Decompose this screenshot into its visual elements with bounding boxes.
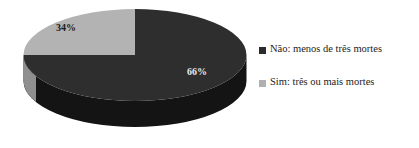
slice-label-nao: 66% bbox=[187, 66, 207, 77]
legend-item-sim[interactable]: Sim: três ou mais mortes bbox=[259, 77, 419, 88]
legend-square-marker-light-icon bbox=[259, 80, 266, 87]
legend-label-nao: Não: menos de três mortes bbox=[270, 44, 382, 55]
pie-chart: 34% 66% Não: menos de três mortes Sim: t… bbox=[0, 0, 419, 148]
pie-plot-area: 34% 66% bbox=[0, 0, 258, 148]
legend-square-marker-dark-icon bbox=[259, 47, 266, 54]
chart-legend: Não: menos de três mortes Sim: três ou m… bbox=[259, 44, 419, 109]
pie-slice-sim bbox=[24, 9, 136, 55]
pie-graphic bbox=[0, 0, 258, 148]
legend-label-sim: Sim: três ou mais mortes bbox=[270, 77, 374, 88]
slice-label-sim: 34% bbox=[56, 22, 76, 33]
legend-item-nao[interactable]: Não: menos de três mortes bbox=[259, 44, 419, 55]
